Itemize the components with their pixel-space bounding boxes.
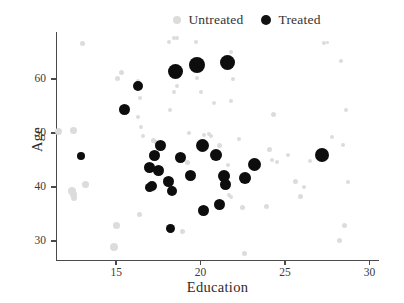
data-point-untreated	[119, 70, 124, 75]
data-point-untreated	[346, 180, 350, 184]
y-tick-label: 60	[26, 72, 46, 84]
data-point-untreated	[229, 99, 233, 103]
data-point-untreated	[110, 243, 118, 251]
legend-marker-treated-icon	[261, 15, 271, 25]
data-point-untreated	[326, 41, 329, 44]
data-point-treated	[119, 104, 130, 115]
data-point-untreated	[337, 238, 342, 243]
data-point-treated	[198, 205, 209, 216]
data-point-untreated	[286, 153, 290, 157]
x-tick-label: 15	[101, 266, 131, 278]
data-point-treated	[133, 81, 143, 91]
data-point-treated	[189, 57, 205, 73]
data-point-untreated	[293, 179, 298, 184]
data-point-treated	[214, 199, 225, 210]
data-point-untreated	[267, 147, 272, 152]
data-point-untreated	[175, 84, 179, 88]
data-point-treated	[168, 64, 183, 79]
data-point-untreated	[298, 194, 303, 199]
data-point-untreated	[270, 158, 274, 162]
x-tick-mark	[115, 260, 116, 265]
data-point-untreated	[70, 127, 77, 134]
x-tick-mark	[369, 260, 370, 265]
data-point-untreated	[302, 185, 306, 189]
x-axis-title: Education	[57, 279, 378, 296]
data-point-untreated	[168, 108, 172, 112]
data-point-treated	[185, 170, 196, 181]
data-point-treated	[155, 140, 166, 151]
data-point-untreated	[341, 143, 345, 147]
data-point-treated	[153, 165, 164, 176]
data-point-untreated	[344, 108, 348, 112]
x-axis-line	[56, 260, 379, 261]
data-point-treated	[220, 179, 231, 190]
data-point-untreated	[55, 128, 62, 135]
data-point-untreated	[185, 160, 190, 165]
plot-area	[57, 33, 378, 260]
x-tick-label: 20	[186, 266, 216, 278]
data-point-treated	[167, 186, 177, 196]
data-point-untreated	[113, 222, 120, 229]
data-point-treated	[210, 149, 222, 161]
data-point-untreated	[209, 134, 213, 138]
data-point-untreated	[342, 223, 347, 228]
legend-entry-untreated[interactable]: Untreated	[173, 12, 243, 28]
chart-legend: Untreated Treated	[0, 8, 404, 32]
y-axis-title: Age	[29, 100, 46, 180]
data-point-treated	[145, 183, 154, 192]
data-point-untreated	[115, 76, 120, 81]
data-point-untreated	[217, 143, 222, 148]
x-tick-mark	[284, 260, 285, 265]
data-point-treated	[166, 224, 175, 233]
y-tick-mark	[51, 186, 56, 187]
data-point-treated	[239, 172, 251, 184]
data-point-untreated	[175, 36, 179, 40]
x-tick-mark	[200, 260, 201, 265]
data-point-untreated	[237, 137, 241, 141]
data-point-untreated	[240, 205, 245, 210]
data-point-untreated	[195, 76, 199, 80]
scatter-plot-figure: Untreated Treated Age Education 30405060…	[0, 0, 404, 303]
data-point-untreated	[137, 212, 142, 217]
data-point-untreated	[167, 40, 171, 44]
data-point-untreated	[172, 90, 176, 94]
data-point-treated	[315, 148, 329, 162]
data-point-untreated	[242, 251, 247, 256]
data-point-untreated	[330, 135, 334, 139]
y-tick-label: 40	[26, 180, 46, 192]
data-point-untreated	[80, 41, 85, 46]
data-point-untreated	[141, 134, 145, 138]
data-point-untreated	[194, 40, 198, 44]
data-point-untreated	[71, 195, 77, 201]
legend-marker-untreated-icon	[173, 16, 181, 24]
data-point-untreated	[264, 204, 269, 209]
legend-entry-treated[interactable]: Treated	[261, 12, 320, 28]
data-point-untreated	[199, 90, 203, 94]
data-point-untreated	[180, 229, 185, 234]
data-point-treated	[149, 150, 160, 161]
data-point-untreated	[226, 163, 230, 167]
y-tick-mark	[51, 240, 56, 241]
data-point-untreated	[229, 195, 233, 199]
legend-label-untreated: Untreated	[188, 12, 243, 28]
data-point-untreated	[138, 96, 142, 100]
data-point-untreated	[139, 125, 143, 129]
data-point-untreated	[231, 77, 235, 81]
data-point-untreated	[187, 131, 191, 135]
y-tick-label: 50	[26, 126, 46, 138]
data-point-treated	[220, 55, 235, 70]
data-point-treated	[196, 139, 209, 152]
data-point-untreated	[275, 160, 279, 164]
data-point-treated	[248, 158, 261, 171]
data-point-untreated	[339, 59, 343, 63]
data-point-untreated	[308, 159, 312, 163]
x-tick-label: 25	[270, 266, 300, 278]
data-point-untreated	[229, 50, 233, 54]
data-point-untreated	[271, 112, 276, 117]
data-point-untreated	[212, 101, 216, 105]
data-point-untreated	[136, 115, 140, 119]
data-point-treated	[77, 152, 85, 160]
legend-label-treated: Treated	[278, 12, 320, 28]
data-point-untreated	[82, 181, 89, 188]
y-tick-mark	[51, 78, 56, 79]
